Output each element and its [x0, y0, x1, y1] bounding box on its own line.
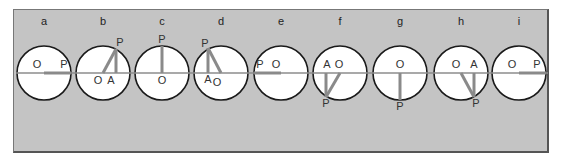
point-label-P-b: P	[116, 36, 123, 48]
point-label-P-d: P	[201, 37, 208, 49]
point-label-P-e: P	[256, 58, 263, 70]
point-label-O-a: O	[33, 58, 42, 70]
frame-label-c: c	[159, 15, 165, 27]
frame-label-h: h	[458, 15, 464, 27]
point-label-O-e: O	[272, 58, 281, 70]
point-label-A-d: A	[204, 73, 212, 85]
point-label-O-b: O	[94, 74, 103, 86]
point-label-P-f: P	[322, 97, 329, 109]
frame-label-f: f	[338, 15, 342, 27]
frame-label-a: a	[41, 15, 48, 27]
point-label-A-h: A	[470, 58, 478, 70]
point-label-O-f: O	[335, 58, 344, 70]
circular-motion-diagram: aOPbOAPcOPdPAOePOfAOPgOPhOAPiOP	[0, 0, 563, 163]
point-label-P-a: P	[60, 58, 67, 70]
frame-label-e: e	[278, 15, 284, 27]
point-label-P-i: P	[533, 58, 540, 70]
point-label-O-h: O	[452, 58, 461, 70]
frame-label-d: d	[218, 15, 224, 27]
point-label-P-g: P	[396, 100, 403, 112]
point-label-P-c: P	[158, 33, 165, 45]
point-label-O-d: O	[213, 76, 222, 88]
point-label-O-g: O	[396, 58, 405, 70]
frame-label-b: b	[100, 15, 106, 27]
frame-label-g: g	[397, 15, 403, 27]
point-label-P-h: P	[472, 97, 479, 109]
frame-label-i: i	[518, 15, 520, 27]
point-label-O-c: O	[158, 74, 167, 86]
point-label-A-b: A	[107, 74, 115, 86]
point-label-A-f: A	[323, 58, 331, 70]
point-label-O-i: O	[508, 58, 517, 70]
